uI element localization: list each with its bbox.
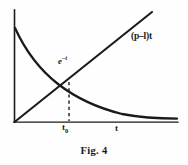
t0-tick-label: t0 xyxy=(62,123,68,132)
straight-line-annotation-var: t xyxy=(149,31,152,41)
figure-caption: Fig. 4 xyxy=(0,145,188,156)
figure-plot-area xyxy=(0,0,188,165)
t0-tick-subscript: 0 xyxy=(65,127,68,134)
straight-line-series xyxy=(15,12,153,122)
exponential-curve-annotation: e–t xyxy=(58,57,67,66)
straight-line-annotation: (p–l)t xyxy=(131,32,152,42)
x-axis-label: t xyxy=(115,124,118,133)
exponential-curve-exponent: –t xyxy=(62,54,67,61)
exponential-decay-series xyxy=(15,28,177,119)
straight-line-annotation-prefix: (p–l) xyxy=(131,31,149,41)
figure-container: (p–l)t e–t t0 t Fig. 4 xyxy=(0,0,188,165)
